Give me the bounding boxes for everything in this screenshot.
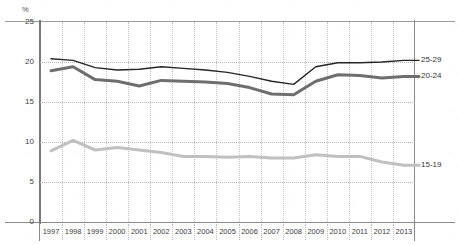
paper-texture-overlay: [0, 0, 459, 245]
x-tick-label: 2012: [371, 223, 393, 241]
series-label-20-24: 20-24: [421, 71, 441, 80]
gridline-vertical: [239, 22, 240, 222]
gridline-vertical: [84, 22, 85, 222]
x-tick-label: 2011: [349, 223, 371, 241]
x-tick-label: 2013: [393, 223, 415, 241]
gridline-horizontal: [40, 142, 415, 143]
gridline-vertical: [150, 22, 151, 222]
x-tick-label: 2009: [305, 223, 327, 241]
gridline-vertical: [305, 22, 306, 222]
x-tick-separator: [62, 224, 63, 240]
x-tick-separator: [194, 224, 195, 240]
y-tick-label: 20: [14, 57, 34, 66]
gridline-horizontal: [40, 62, 415, 63]
x-tick-label: 2005: [216, 223, 238, 241]
x-tick-separator: [327, 224, 328, 240]
series-line-20-24: [51, 67, 404, 95]
x-tick-label: 2010: [327, 223, 349, 241]
x-tick-separator: [349, 224, 350, 240]
gridline-vertical: [62, 22, 63, 222]
x-tick-separator: [239, 224, 240, 240]
x-tick-separator: [172, 224, 173, 240]
x-tick-label: 2006: [239, 223, 261, 241]
x-tick-label: 2000: [106, 223, 128, 241]
gridline-vertical: [194, 22, 195, 222]
x-tick-label: 1997: [40, 223, 62, 241]
x-tick-label: 2001: [128, 223, 150, 241]
gridline-vertical: [172, 22, 173, 222]
x-tick-label: 2008: [283, 223, 305, 241]
gridline-vertical: [349, 22, 350, 222]
y-axis-line: [39, 20, 41, 224]
series-line-15-19: [51, 140, 404, 165]
gridline-vertical: [283, 22, 284, 222]
x-tick-separator: [305, 224, 306, 240]
line-chart: % 2520151050 199719981999200020012002200…: [0, 0, 459, 245]
x-tick-separator: [128, 224, 129, 240]
x-tick-label: 1998: [62, 223, 84, 241]
top-rule: [5, 21, 455, 22]
x-axis-band: 1997199819992000200120022003200420052006…: [40, 223, 415, 241]
x-tick-label: 2007: [261, 223, 283, 241]
gridline-vertical: [393, 22, 394, 222]
gridline-horizontal: [40, 182, 415, 183]
series-label-15-19: 15-19: [421, 160, 441, 169]
chart-title-strip: [0, 0, 459, 9]
x-tick-separator: [84, 224, 85, 240]
x-tick-separator: [216, 224, 217, 240]
y-tick-label: 25: [14, 17, 34, 26]
x-tick-separator: [150, 224, 151, 240]
x-tick-separator: [283, 224, 284, 240]
x-tick-label: 1999: [84, 223, 106, 241]
x-tick-label: 2002: [150, 223, 172, 241]
x-tick-separator: [393, 224, 394, 240]
y-tick-label: 15: [14, 97, 34, 106]
gridline-vertical: [216, 22, 217, 222]
series-label-25-29: 25-29: [421, 55, 441, 64]
gridline-vertical: [128, 22, 129, 222]
x-tick-separator: [261, 224, 262, 240]
y-tick-label: 10: [14, 137, 34, 146]
gridline-vertical: [371, 22, 372, 222]
x-tick-separator: [106, 224, 107, 240]
x-tick-label: 2003: [172, 223, 194, 241]
series-layer: [0, 0, 459, 245]
gridline-horizontal: [40, 102, 415, 103]
y-axis-unit-label: %: [22, 5, 29, 14]
gridline-vertical: [327, 22, 328, 222]
gridline-vertical: [106, 22, 107, 222]
right-axis-line: [414, 20, 415, 224]
x-tick-separator: [371, 224, 372, 240]
y-tick-label: 0: [14, 217, 34, 226]
x-tick-label: 2004: [194, 223, 216, 241]
gridline-vertical: [261, 22, 262, 222]
y-tick-label: 5: [14, 177, 34, 186]
